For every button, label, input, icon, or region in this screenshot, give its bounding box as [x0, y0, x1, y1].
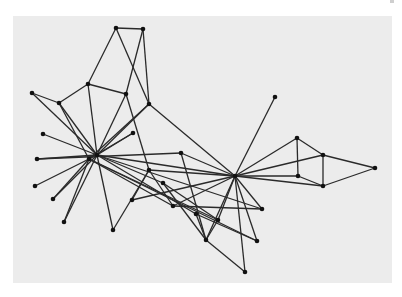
- edge-AF-AH: [206, 240, 245, 272]
- edge-A-C: [88, 28, 116, 84]
- edge-R-T: [323, 168, 375, 186]
- edge-layer: [32, 28, 375, 272]
- node-AF: [204, 238, 209, 243]
- node-P: [295, 136, 300, 141]
- node-S: [296, 174, 301, 179]
- edge-AE-AF: [206, 220, 218, 240]
- node-L: [87, 157, 92, 162]
- node-AG: [255, 239, 260, 244]
- node-M: [35, 157, 40, 162]
- edge-L-V: [53, 159, 89, 199]
- edge-C-G: [59, 84, 88, 103]
- edge-K-W: [64, 155, 97, 222]
- node-T: [321, 184, 326, 189]
- node-N: [179, 151, 184, 156]
- edge-M-N: [37, 153, 181, 159]
- node-E: [147, 102, 152, 107]
- network-graph: [0, 0, 402, 297]
- node-K: [95, 153, 100, 158]
- node-O: [233, 174, 238, 179]
- node-D: [124, 92, 129, 97]
- edge-F-K: [32, 93, 97, 155]
- node-AA: [130, 198, 135, 203]
- edge-E-L: [89, 104, 149, 159]
- edge-C-D: [88, 84, 126, 94]
- node-U: [33, 184, 38, 189]
- node-AB: [171, 204, 176, 209]
- node-F: [30, 91, 35, 96]
- node-AH: [243, 270, 248, 275]
- edge-P-S: [297, 138, 298, 176]
- edge-L-W: [64, 159, 89, 222]
- node-AC: [194, 212, 199, 217]
- node-I: [41, 132, 46, 137]
- edge-F-G: [32, 93, 59, 103]
- node-C: [86, 82, 91, 87]
- node-AD: [260, 207, 265, 212]
- edge-Q-R: [323, 155, 375, 168]
- edge-O-Q: [235, 155, 323, 176]
- node-Z: [161, 181, 166, 186]
- node-Q: [321, 153, 326, 158]
- node-G: [57, 101, 62, 106]
- node-AE: [216, 218, 221, 223]
- node-X: [111, 228, 116, 233]
- node-V: [51, 197, 56, 202]
- node-R: [373, 166, 378, 171]
- edge-A-B: [116, 28, 143, 29]
- node-B: [141, 27, 146, 32]
- node-W: [62, 220, 67, 225]
- edge-P-Q: [297, 138, 323, 155]
- node-Y: [147, 168, 152, 173]
- node-J: [131, 131, 136, 136]
- node-H: [273, 95, 278, 100]
- edge-D-Y: [126, 94, 149, 170]
- node-A: [114, 26, 119, 31]
